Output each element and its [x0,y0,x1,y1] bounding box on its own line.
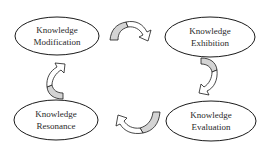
node-resonance-line1: Knowledge [35,108,77,120]
node-evaluation-label: Knowledge Evaluation [190,109,232,133]
arrow-modification-to-exhibition-icon [110,21,151,41]
arrow-exhibition-to-evaluation-icon [199,58,217,95]
node-exhibition-line2: Exhibition [189,37,231,49]
node-modification-line1: Knowledge [34,24,81,36]
node-evaluation-line1: Knowledge [190,109,232,121]
node-modification-label: Knowledge Modification [34,24,81,48]
node-evaluation-line2: Evaluation [190,121,232,133]
node-exhibition-line1: Knowledge [189,25,231,37]
arrow-resonance-to-modification-icon [47,63,65,99]
node-resonance-label: Knowledge Resonance [35,108,77,132]
arrow-evaluation-to-resonance-icon [116,112,160,134]
node-resonance-line2: Resonance [35,120,77,132]
node-exhibition-label: Knowledge Exhibition [189,25,231,49]
node-modification-line2: Modification [34,36,81,48]
